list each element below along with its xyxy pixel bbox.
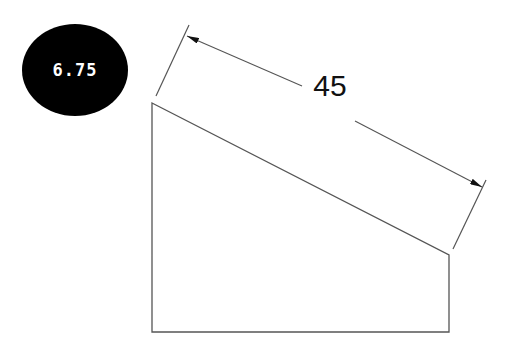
trapezoid-outline — [152, 103, 449, 332]
extension-line-left — [156, 25, 189, 96]
technical-drawing: 45 — [0, 0, 507, 348]
dimension-line-right — [355, 121, 482, 187]
dimension-line-left — [187, 36, 302, 86]
dimension-label: 45 — [313, 69, 346, 102]
extension-line-right — [453, 180, 486, 249]
diagram-canvas: 6.75 45 — [0, 0, 507, 348]
